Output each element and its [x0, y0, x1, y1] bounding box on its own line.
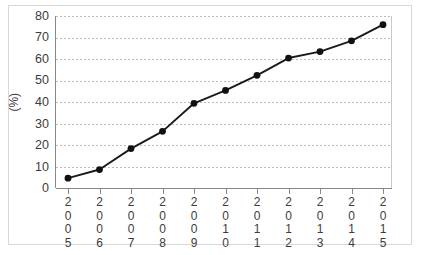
- data-point-2011: [254, 72, 261, 79]
- x-tick-label-2010: 2010: [222, 195, 229, 250]
- x-tick-digit: 7: [128, 236, 135, 250]
- x-tick-digit: 1: [317, 222, 324, 236]
- x-tick-label-2015: 2015: [380, 195, 387, 250]
- data-point-2005: [65, 175, 72, 182]
- x-tick-digit: 5: [65, 236, 72, 250]
- x-tick-label-2011: 2011: [254, 195, 261, 250]
- data-point-2014: [348, 37, 355, 44]
- x-tick-digit: 0: [65, 209, 72, 223]
- data-point-2006: [96, 166, 103, 173]
- x-tick-digit: 1: [380, 222, 387, 236]
- x-tick-digit: 0: [285, 209, 292, 223]
- x-tick-digit: 8: [159, 236, 166, 250]
- y-axis-title: (%): [7, 93, 21, 112]
- x-tick-digit: 2: [380, 195, 387, 209]
- x-tick-digit: 0: [222, 209, 229, 223]
- x-tick-digit: 2: [65, 195, 72, 209]
- x-tick-label-2006: 2006: [96, 195, 103, 250]
- x-tick-label-2013: 2013: [317, 195, 324, 250]
- x-tick-digit: 2: [348, 195, 355, 209]
- data-point-2010: [222, 87, 229, 94]
- x-tick-digit: 0: [380, 209, 387, 223]
- data-point-2013: [317, 48, 324, 55]
- x-tick-digit: 0: [317, 209, 324, 223]
- x-tick-digit: 6: [96, 236, 103, 250]
- x-tick-digit: 2: [285, 236, 292, 250]
- x-tick-label-2005: 2005: [65, 195, 72, 250]
- y-tick-label-60: 60: [35, 52, 49, 66]
- x-tick-digit: 0: [159, 222, 166, 236]
- x-tick-digit: 1: [348, 222, 355, 236]
- x-tick-digit: 2: [254, 195, 261, 209]
- data-line-series: [68, 25, 383, 179]
- y-tick-label-40: 40: [35, 95, 49, 109]
- x-tick-digit: 1: [285, 222, 292, 236]
- x-tick-digit: 1: [254, 236, 261, 250]
- x-tick-digit: 2: [191, 195, 198, 209]
- x-tick-digit: 2: [128, 195, 135, 209]
- x-tick-label-2009: 2009: [191, 195, 198, 250]
- y-tick-label-50: 50: [35, 73, 49, 87]
- x-tick-digit: 5: [380, 236, 387, 250]
- y-tick-label-70: 70: [35, 30, 49, 44]
- x-tick-digit: 0: [96, 222, 103, 236]
- data-point-2015: [380, 21, 387, 28]
- x-tick-digit: 0: [191, 222, 198, 236]
- x-tick-digit: 0: [191, 209, 198, 223]
- x-tick-digit: 0: [65, 222, 72, 236]
- x-tick-label-2012: 2012: [285, 195, 292, 250]
- y-axis-label-percent: (%): [7, 93, 21, 112]
- x-tick-digit: 2: [285, 195, 292, 209]
- x-tick-digit: 1: [222, 222, 229, 236]
- x-tick-digit: 0: [348, 209, 355, 223]
- y-axis-tick-labels: 01020304050607080: [35, 9, 49, 196]
- data-point-2012: [285, 55, 292, 62]
- x-tick-label-2008: 2008: [159, 195, 166, 250]
- x-tick-digit: 0: [222, 236, 229, 250]
- x-tick-digit: 1: [254, 222, 261, 236]
- y-tick-label-30: 30: [35, 117, 49, 131]
- x-tick-label-2014: 2014: [348, 195, 355, 250]
- x-tick-digit: 0: [128, 209, 135, 223]
- x-tick-label-2007: 2007: [128, 195, 135, 250]
- data-point-2009: [191, 100, 198, 107]
- x-tick-digit: 0: [254, 209, 261, 223]
- x-tick-digit: 3: [317, 236, 324, 250]
- y-tick-label-0: 0: [42, 181, 49, 195]
- x-tick-digit: 0: [96, 209, 103, 223]
- data-point-2008: [159, 128, 166, 135]
- x-tick-digit: 2: [317, 195, 324, 209]
- x-tick-digit: 9: [191, 236, 198, 250]
- line-chart: 01020304050607080 (%) 200520062007200820…: [0, 0, 421, 255]
- x-tick-digit: 2: [159, 195, 166, 209]
- x-tick-digit: 0: [159, 209, 166, 223]
- y-tick-label-80: 80: [35, 9, 49, 23]
- data-point-2007: [128, 145, 135, 152]
- x-tick-digit: 0: [128, 222, 135, 236]
- x-tick-digit: 2: [222, 195, 229, 209]
- y-tick-label-10: 10: [35, 160, 49, 174]
- x-tick-digit: 4: [348, 236, 355, 250]
- x-tick-digit: 2: [96, 195, 103, 209]
- y-tick-label-20: 20: [35, 138, 49, 152]
- x-axis-tick-labels: 2005200620072008200920102011201220132014…: [65, 195, 387, 250]
- x-axis-tick-marks: [69, 189, 384, 194]
